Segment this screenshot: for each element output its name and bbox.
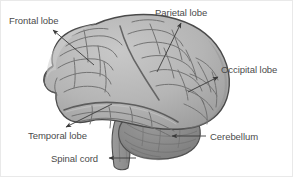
label-frontal-lobe: Frontal lobe <box>9 15 59 26</box>
label-cerebellum: Cerebellum <box>210 131 258 142</box>
arrow-frontal-lobe <box>53 30 94 65</box>
arrow-temporal-lobe <box>66 104 112 127</box>
brain-diagram-figure: Frontal lobe Parietal lobe Occipital lob… <box>0 0 294 178</box>
label-spinal-cord: Spinal cord <box>51 153 98 164</box>
arrow-parietal-lobe <box>157 23 181 72</box>
label-occipital-lobe: Occipital lobe <box>221 64 277 75</box>
annotation-arrows <box>0 0 294 178</box>
arrow-occipital-lobe <box>188 77 218 92</box>
label-parietal-lobe: Parietal lobe <box>155 7 207 18</box>
label-temporal-lobe: Temporal lobe <box>28 130 87 141</box>
